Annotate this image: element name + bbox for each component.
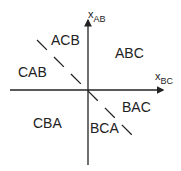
region-bac: BAC [122,99,151,115]
region-cab: CAB [18,64,47,80]
region-abc: ABC [115,45,144,61]
region-bca: BCA [90,120,119,136]
vertical-axis-label: xAB [88,8,106,24]
region-cba: CBA [33,115,62,131]
region-acb: ACB [51,32,80,48]
horizontal-axis-label: xBC [155,70,174,86]
ordering-diagram: xAB xBC ACB ABC CAB BAC CBA BCA [0,0,181,171]
